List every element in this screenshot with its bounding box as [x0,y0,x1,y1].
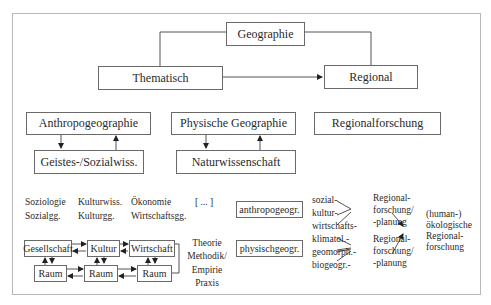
label-methodik: Methodik/ [186,250,228,263]
label-forschung-out: forschung [426,241,464,254]
label-kultur: kultur- [312,207,338,220]
label-klimatol: klimatol.- [312,233,349,246]
label-planung-b: -planung [373,257,407,270]
node-anthropogeographie: Anthropogeographie [26,112,151,135]
label-planung-a: -planung [373,216,407,229]
node-regional: Regional [324,65,418,89]
label-wirtschafts: wirtschafts- [312,220,357,233]
node-naturwissenschaft: Naturwissenschaft [176,150,296,174]
label-ellipsis: [ ... ] [195,196,213,209]
label-kulturwiss: Kulturwiss. [78,196,122,209]
label-sozial: sozial- [312,194,337,207]
node-thematisch: Thematisch [98,66,223,90]
node-kultur: Kultur [87,240,120,257]
label-soziologie: Soziologie [25,196,66,209]
label-theorie: Theorie [188,237,226,250]
label-sozialgg: Sozialgg. [25,210,61,223]
label-kulturgg: Kulturgg. [78,210,115,223]
label-biogeogr: biogeogr.- [312,259,351,272]
node-geographie: Geographie [226,22,305,46]
node-anthropogeogr: anthropogeogr. [236,201,303,218]
label-oekonomie: Ökonomie [131,196,171,209]
node-physische-geographie: Physische Geographie [171,112,296,135]
label-geomorph: geomorph.- [312,246,356,259]
node-raum-3: Raum [137,265,172,282]
label-wirtschaftsgg: Wirtschaftsgg. [131,210,186,223]
node-raum-1: Raum [34,265,67,282]
node-regionalforschung: Regionalforschung [314,112,441,135]
node-physischgeogr: physischgeogr. [236,240,303,257]
label-empirie: Empirie [188,264,226,277]
node-raum-2: Raum [84,265,118,282]
label-praxis: Praxis [188,277,226,290]
node-wirtschaft: Wirtschaft [129,240,175,257]
node-geistes-sozialwiss: Geistes-/Sozialwiss. [34,150,144,174]
node-gesellschaft: Gesellschaft [24,240,72,257]
